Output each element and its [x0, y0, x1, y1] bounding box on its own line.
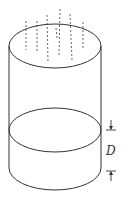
rain-streak	[56, 28, 57, 38]
rain-streaks	[26, 9, 83, 62]
water-surface-ellipse	[9, 108, 101, 152]
cylinder-diagram: D	[0, 0, 122, 199]
upper-arrowhead-icon	[109, 126, 113, 130]
bottom-arc	[9, 168, 101, 190]
cylinder	[9, 24, 101, 190]
rain-streak	[70, 14, 72, 60]
depth-label: D	[105, 144, 116, 158]
top-ellipse	[9, 24, 101, 68]
lower-arrowhead-icon	[109, 171, 113, 175]
rain-streak	[47, 15, 48, 62]
rain-streak	[59, 9, 60, 55]
